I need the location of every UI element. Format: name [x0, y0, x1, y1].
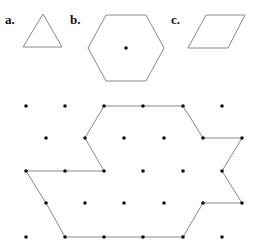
grid-dot: [201, 136, 205, 140]
grid-dot: [141, 235, 145, 239]
grid-dot: [83, 201, 87, 205]
composite-outline: [26, 106, 242, 237]
grid-dot: [63, 169, 67, 173]
grid-dot: [220, 235, 224, 239]
grid-dot: [141, 104, 145, 108]
grid-dot: [181, 235, 185, 239]
grid-dot: [63, 235, 67, 239]
grid-dot: [102, 235, 106, 239]
grid-dot: [181, 169, 185, 173]
grid-dot: [220, 104, 224, 108]
label-a: a.: [5, 13, 15, 26]
grid-dot: [102, 104, 106, 108]
grid-dot: [220, 169, 224, 173]
grid-dot: [24, 235, 28, 239]
grid-dot: [102, 169, 106, 173]
triangle-shape: [23, 14, 62, 47]
label-b: b.: [70, 13, 80, 26]
grid-dot: [141, 169, 145, 173]
grid-dot: [24, 169, 28, 173]
grid-dot: [44, 136, 48, 140]
grid-dot: [122, 136, 126, 140]
grid-dot: [240, 136, 244, 140]
grid-dot: [240, 201, 244, 205]
grid-dot: [181, 104, 185, 108]
grid-dot: [24, 104, 28, 108]
grid-dot: [201, 201, 205, 205]
hexagon-center-dot: [124, 46, 128, 50]
grid-dot: [162, 136, 166, 140]
grid-dot: [122, 201, 126, 205]
grid-dot: [162, 201, 166, 205]
label-c: c.: [171, 13, 180, 26]
tiling-diagram: [0, 0, 261, 251]
rhombus-shape: [188, 15, 245, 48]
grid-dot: [83, 136, 87, 140]
grid-dot: [63, 104, 67, 108]
grid-dot: [44, 201, 48, 205]
